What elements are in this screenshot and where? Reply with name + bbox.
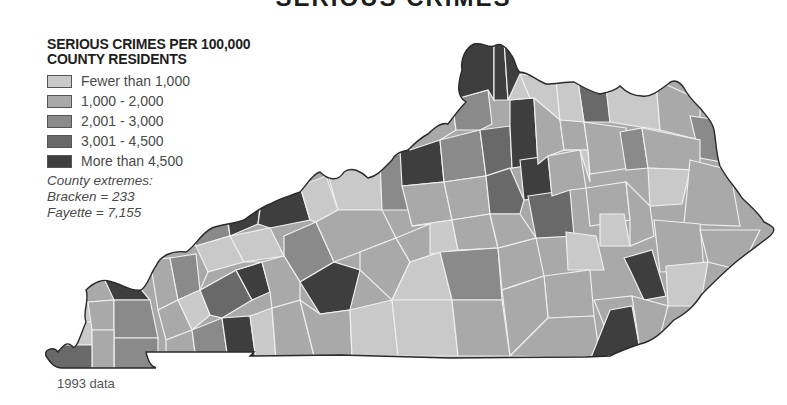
legend-label: More than 4,500 xyxy=(81,153,183,169)
legend-item-fewer-than-1000: Fewer than 1,000 xyxy=(47,71,250,91)
legend-label: 2,001 - 3,000 xyxy=(81,113,164,129)
extreme-fayette: Fayette = 7,155 xyxy=(47,205,250,221)
map-legend: SERIOUS CRIMES PER 100,000 COUNTY RESIDE… xyxy=(47,37,250,221)
legend-title-line2: COUNTY RESIDENTS xyxy=(47,52,250,67)
legend-label: 1,000 - 2,000 xyxy=(81,93,164,109)
legend-label: Fewer than 1,000 xyxy=(81,73,190,89)
legend-swatch xyxy=(47,95,72,108)
legend-item-more-than-4500: More than 4,500 xyxy=(47,151,250,171)
legend-swatch xyxy=(47,75,72,88)
county-extremes: County extremes: Bracken = 233 Fayette =… xyxy=(47,173,250,221)
extreme-bracken: Bracken = 233 xyxy=(47,189,250,205)
extremes-heading: County extremes: xyxy=(47,173,250,189)
legend-swatch xyxy=(47,115,72,128)
legend-swatch xyxy=(47,135,72,148)
legend-swatch xyxy=(47,155,72,168)
legend-item-1000-2000: 1,000 - 2,000 xyxy=(47,91,250,111)
legend-item-3001-4500: 3,001 - 4,500 xyxy=(47,131,250,151)
data-year-note: 1993 data xyxy=(57,376,115,391)
legend-title-line1: SERIOUS CRIMES PER 100,000 xyxy=(47,37,250,52)
legend-item-2001-3000: 2,001 - 3,000 xyxy=(47,111,250,131)
legend-label: 3,001 - 4,500 xyxy=(81,133,164,149)
